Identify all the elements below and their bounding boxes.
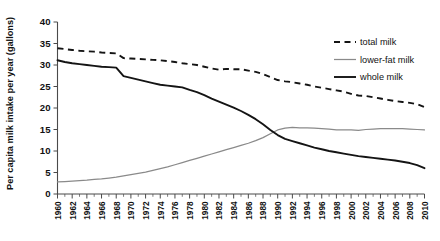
- y-tick-label: 40: [40, 16, 51, 27]
- x-tick-label: 1998: [333, 201, 342, 220]
- legend-label-whole: whole milk: [359, 72, 403, 82]
- y-axis-ticks: 0510152025303540: [40, 16, 58, 199]
- x-tick-label: 1990: [274, 201, 283, 220]
- x-tick-label: 2002: [362, 201, 371, 220]
- x-tick-label: 2006: [392, 201, 401, 220]
- y-tick-label: 35: [40, 38, 51, 49]
- x-tick-label: 2004: [377, 201, 386, 220]
- data-series-group: [58, 48, 425, 182]
- x-tick-label: 1980: [201, 201, 210, 220]
- chart-legend: total milklower-fat milkwhole milk: [334, 37, 415, 82]
- x-tick-label: 1984: [230, 201, 239, 220]
- x-tick-label: 2000: [348, 201, 357, 220]
- chart-canvas: Per capita milk intake per year (gallons…: [0, 0, 440, 241]
- line-chart-milk-intake: Per capita milk intake per year (gallons…: [0, 0, 440, 241]
- x-tick-label: 1970: [127, 201, 136, 220]
- y-axis-title: Per capita milk intake per year (gallons…: [5, 17, 15, 190]
- x-tick-label: 1960: [54, 201, 63, 220]
- axis-lines: [58, 22, 425, 194]
- y-tick-label: 30: [40, 59, 51, 70]
- x-tick-label: 1966: [98, 201, 107, 220]
- x-tick-label: 1996: [318, 201, 327, 220]
- x-tick-label: 1976: [171, 201, 180, 220]
- x-tick-label: 1978: [186, 201, 195, 220]
- x-tick-label: 1964: [83, 201, 92, 220]
- x-tick-label: 1972: [142, 201, 151, 220]
- y-tick-label: 0: [45, 188, 50, 199]
- x-tick-label: 1992: [289, 201, 298, 220]
- y-axis-title-text: Per capita milk intake per year (gallons…: [5, 17, 15, 190]
- y-tick-label: 25: [40, 81, 51, 92]
- y-tick-label: 10: [40, 145, 51, 156]
- x-tick-label: 1982: [215, 201, 224, 220]
- x-tick-label: 1974: [157, 201, 166, 220]
- x-tick-label: 1988: [259, 201, 268, 220]
- series-line-lower-fat-milk: [58, 127, 425, 182]
- x-tick-label: 1994: [303, 201, 312, 220]
- x-tick-label: 1986: [245, 201, 254, 220]
- x-tick-label: 2010: [421, 201, 430, 220]
- y-tick-label: 20: [40, 102, 51, 113]
- x-tick-label: 1962: [69, 201, 78, 220]
- legend-label-total: total milk: [360, 37, 397, 47]
- x-axis-ticks: 1960196219641966196819701972197419761978…: [54, 194, 430, 220]
- x-tick-label: 2008: [406, 201, 415, 220]
- y-tick-label: 15: [40, 124, 51, 135]
- y-tick-label: 5: [45, 167, 51, 178]
- x-tick-label: 1968: [113, 201, 122, 220]
- legend-label-lowerfat: lower-fat milk: [360, 55, 415, 65]
